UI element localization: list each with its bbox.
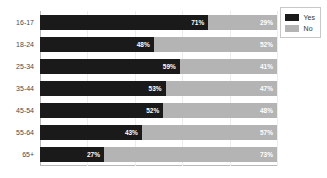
- bar-segment-no: 29%: [208, 15, 277, 30]
- bar-row: 53%47%: [40, 81, 277, 96]
- bar-segment-no: 52%: [154, 37, 277, 52]
- legend-swatch-icon: [285, 25, 299, 32]
- bar-value-label-yes: 43%: [125, 129, 138, 136]
- category-label: 55-64: [0, 129, 34, 136]
- bar-row: 71%29%: [40, 15, 277, 30]
- bar-segment-no: 47%: [166, 81, 277, 96]
- bar-value-label-no: 73%: [260, 151, 273, 158]
- bar-row: 59%41%: [40, 59, 277, 74]
- bar-segment-no: 57%: [142, 125, 277, 140]
- bar-segment-yes: 43%: [40, 125, 142, 140]
- category-label: 18-24: [0, 41, 34, 48]
- bar-value-label-yes: 53%: [149, 85, 162, 92]
- chart-legend: YesNo: [280, 7, 321, 38]
- bar-segment-yes: 27%: [40, 147, 104, 162]
- bar-value-label-no: 57%: [260, 129, 273, 136]
- bar-segment-yes: 59%: [40, 59, 180, 74]
- legend-item[interactable]: No: [285, 23, 315, 33]
- bar-segment-yes: 71%: [40, 15, 208, 30]
- gridline: [277, 11, 278, 166]
- legend-label: Yes: [304, 14, 315, 21]
- category-label: 25-34: [0, 63, 34, 70]
- stacked-bar-chart: 71%29%48%52%59%41%53%47%52%48%43%57%27%7…: [0, 0, 327, 178]
- bar-value-label-yes: 48%: [137, 41, 150, 48]
- bar-segment-yes: 48%: [40, 37, 154, 52]
- bar-row: 27%73%: [40, 147, 277, 162]
- bar-row: 52%48%: [40, 103, 277, 118]
- bar-segment-yes: 53%: [40, 81, 166, 96]
- legend-label: No: [304, 25, 313, 32]
- category-label: 35-44: [0, 85, 34, 92]
- bar-segment-no: 73%: [104, 147, 277, 162]
- legend-item[interactable]: Yes: [285, 12, 315, 22]
- bar-value-label-yes: 27%: [87, 151, 100, 158]
- bar-value-label-yes: 52%: [146, 107, 159, 114]
- bar-segment-no: 48%: [163, 103, 277, 118]
- bar-rows: 71%29%48%52%59%41%53%47%52%48%43%57%27%7…: [40, 11, 277, 166]
- bar-value-label-yes: 59%: [163, 63, 176, 70]
- bar-segment-no: 41%: [180, 59, 277, 74]
- category-label: 45-54: [0, 107, 34, 114]
- bar-value-label-no: 48%: [260, 107, 273, 114]
- legend-swatch-icon: [285, 14, 299, 21]
- bar-row: 48%52%: [40, 37, 277, 52]
- category-label: 16-17: [0, 19, 34, 26]
- bar-value-label-no: 47%: [260, 85, 273, 92]
- category-label: 65+: [0, 151, 34, 158]
- bar-row: 43%57%: [40, 125, 277, 140]
- bar-segment-yes: 52%: [40, 103, 163, 118]
- bar-value-label-no: 29%: [260, 19, 273, 26]
- bar-value-label-no: 41%: [260, 63, 273, 70]
- bar-value-label-no: 52%: [260, 41, 273, 48]
- bar-value-label-yes: 71%: [191, 19, 204, 26]
- plot-area: 71%29%48%52%59%41%53%47%52%48%43%57%27%7…: [40, 11, 277, 166]
